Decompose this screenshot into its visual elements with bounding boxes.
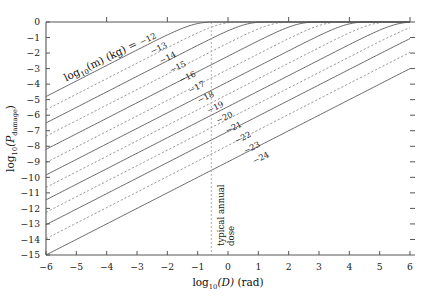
- y-tick-label: −8: [26, 140, 40, 151]
- x-title-unit: (rad): [234, 276, 264, 288]
- curve-neg14: [46, 22, 410, 123]
- y-tick-label: −5: [26, 94, 40, 105]
- x-tick-label: −5: [70, 261, 84, 272]
- chart-svg: −6−5−4−3−2−101234560−1−2−3−4−5−6−7−8−9−1…: [0, 0, 426, 296]
- x-tick-label: 3: [316, 261, 322, 272]
- x-tick-label: −3: [130, 261, 144, 272]
- x-tick-label: −1: [191, 261, 205, 272]
- y-tick-label: −12: [21, 203, 40, 214]
- y-title-log: log: [4, 155, 16, 172]
- curve-neg18: [46, 22, 410, 175]
- annotation-line-1: typical annual: [216, 184, 226, 246]
- x-tick-label: 4: [346, 261, 352, 272]
- x-title-var: (D): [217, 276, 234, 288]
- svg-text:log10(m) (kg) =: log10(m) (kg) =: [62, 37, 140, 85]
- x-tick-label: 6: [407, 261, 413, 272]
- annotation-line-2: dose: [226, 226, 236, 246]
- x-tick-label: 5: [377, 261, 383, 272]
- x-tick-label: 0: [225, 261, 231, 272]
- y-tick-label: −3: [26, 63, 40, 74]
- x-tick-label: 1: [255, 261, 261, 272]
- y-title-var-sub: damage: [11, 109, 19, 136]
- x-axis-title: log10(D) (rad): [192, 276, 263, 291]
- chart-figure: −6−5−4−3−2−101234560−1−2−3−4−5−6−7−8−9−1…: [0, 0, 426, 296]
- y-tick-label: −15: [21, 249, 41, 260]
- y-tick-label: −9: [26, 156, 40, 167]
- x-title-log: log: [192, 276, 209, 288]
- y-title-sub: 10: [11, 147, 19, 156]
- curve-neg23: [46, 52, 410, 238]
- y-tick-label: −1: [26, 32, 40, 43]
- typical-annual-dose-label: typical annualdose: [216, 184, 236, 246]
- y-title-var-close: ): [4, 105, 16, 109]
- y-tick-label: −6: [26, 109, 40, 120]
- x-title-sub: 10: [209, 283, 218, 291]
- y-tick-label: −14: [21, 234, 41, 245]
- y-tick-label: −10: [21, 172, 41, 183]
- x-tick-label: −6: [39, 261, 53, 272]
- curve-neg17: [46, 22, 410, 163]
- svg-text:log10(Pdamage): log10(Pdamage): [4, 105, 19, 172]
- legend-log: log: [62, 65, 82, 83]
- y-tick-label: −2: [26, 47, 40, 58]
- curve-neg19: [46, 22, 410, 187]
- x-tick-label: −4: [100, 261, 114, 272]
- y-tick-label: −11: [21, 187, 40, 198]
- y-axis-title: log10(Pdamage): [4, 105, 19, 172]
- legend-title: log10(m) (kg) =: [62, 37, 140, 85]
- y-tick-label: −7: [26, 125, 40, 136]
- y-tick-label: −4: [26, 78, 40, 89]
- y-tick-label: −13: [21, 218, 41, 229]
- x-tick-label: 2: [286, 261, 292, 272]
- y-tick-label: 0: [34, 16, 40, 27]
- x-tick-label: −2: [161, 261, 175, 272]
